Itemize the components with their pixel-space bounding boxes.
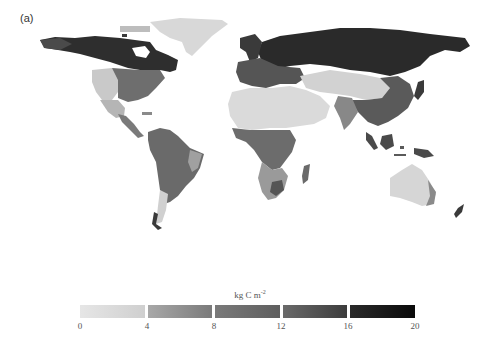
region-sumatra xyxy=(366,132,378,150)
colorbar-unit-exponent: -2 xyxy=(261,289,266,295)
colorbar-segment-16-20 xyxy=(350,305,415,318)
region-madagascar xyxy=(302,164,310,184)
world-map xyxy=(0,0,485,290)
region-western-usa xyxy=(92,68,118,100)
region-central-america xyxy=(118,114,144,138)
colorbar-segment-4-8 xyxy=(148,305,213,318)
colorbar-tick: 8 xyxy=(212,321,217,331)
colorbar-title: kg C m-2 xyxy=(210,289,290,300)
region-japan xyxy=(414,80,424,100)
colorbar-tick: 12 xyxy=(277,321,286,331)
region-sulawesi xyxy=(400,146,404,149)
colorbar-tick: 20 xyxy=(411,321,420,331)
colorbar-tick: 4 xyxy=(145,321,150,331)
colorbar-tick: 16 xyxy=(344,321,353,331)
region-scandinavia xyxy=(240,34,262,62)
colorbar-tick: 0 xyxy=(78,321,83,331)
colorbar-ticks: 0 4 8 12 16 20 xyxy=(0,321,485,333)
colorbar xyxy=(80,305,415,318)
colorbar-segment-12-16 xyxy=(283,305,348,318)
region-greenland xyxy=(150,18,228,56)
region-caribbean xyxy=(142,112,152,115)
region-arctic-islands xyxy=(120,26,150,32)
colorbar-segment-0-4 xyxy=(80,305,145,318)
region-eastern-usa xyxy=(112,68,165,102)
region-new-zealand xyxy=(454,204,464,218)
region-new-guinea xyxy=(414,148,434,158)
colorbar-unit: kg C m xyxy=(234,290,261,300)
region-patagonia xyxy=(156,190,168,224)
region-arctic-island xyxy=(122,34,127,37)
region-java xyxy=(394,154,406,156)
region-sahara-arabia xyxy=(228,86,330,130)
colorbar-segment-8-12 xyxy=(215,305,280,318)
region-borneo xyxy=(380,134,394,150)
